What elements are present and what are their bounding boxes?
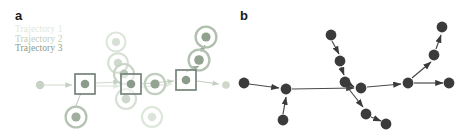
edge-upperright-to-topright [436, 35, 441, 49]
edge-below-to-hub [283, 97, 286, 114]
node-right-hub [403, 78, 414, 89]
node-center [356, 83, 367, 94]
edge-square-left-to-center [96, 82, 120, 83]
edge-center-to-righthub [367, 84, 401, 87]
legend: Trajectory 1 Trajectory 2 Trajectory 3 [15, 25, 63, 54]
panel-b-graphic [235, 0, 469, 140]
edge-top-to-branchmid [332, 41, 339, 54]
edge-hub-to-center [292, 88, 354, 89]
node-branch-mid [335, 56, 346, 67]
start-node [36, 81, 44, 89]
figure-container: a Trajectory 1 Trajectory 2 Trajectory 3 [0, 0, 469, 140]
square-markers [75, 70, 196, 94]
node-lower-branch [361, 109, 372, 120]
node-top-right [437, 22, 448, 33]
node-far-left [239, 78, 250, 89]
edge-square-right-to-end [197, 81, 219, 84]
ringed-node-top-right [196, 27, 217, 48]
node-branch-low [340, 77, 351, 88]
node-below-hub [278, 115, 289, 126]
legend-entry-trajectory-3: Trajectory 3 [15, 44, 63, 54]
node-lower-end [381, 119, 392, 130]
square-marker-right [176, 70, 196, 90]
end-node [222, 81, 230, 89]
panel-b-label: b [240, 9, 248, 22]
edge-righthub-to-upperright [412, 62, 431, 78]
ringed-node-bottom-left [66, 107, 87, 128]
graph-nodes [239, 22, 455, 130]
node-hub-left [281, 84, 292, 95]
ringed-node-upper-mid [107, 33, 126, 52]
panel-a-label: a [15, 9, 22, 22]
edge-farleft-to-hub [249, 84, 279, 88]
panel-a: a Trajectory 1 Trajectory 2 Trajectory 3 [0, 0, 235, 140]
square-marker-center [121, 74, 141, 94]
edge-branchmid-to-branchlow [341, 67, 344, 75]
edge-lowerbranch-to-lowerend [371, 117, 381, 121]
ringed-node-bottom-right [142, 107, 162, 127]
node-upper-right [429, 50, 440, 61]
node-top-branch [326, 30, 337, 41]
square-marker-left [75, 74, 95, 94]
ringed-node-upper-right [189, 50, 210, 71]
node-far-right [444, 78, 455, 89]
panel-a-graphic [0, 0, 235, 140]
panel-b: b [235, 0, 469, 140]
